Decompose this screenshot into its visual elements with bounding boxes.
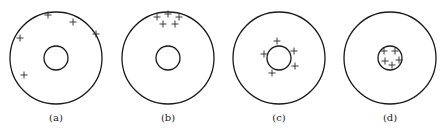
charge-distribution-figure: (a)(b)(c)(d) (a) (b) (c) (d)	[0, 0, 448, 132]
positive-charge-icon	[21, 72, 28, 79]
inner-cavity-circle	[156, 46, 180, 70]
panel-caption: (b)	[161, 112, 175, 123]
panel-c: (c)	[233, 12, 325, 123]
positive-charge-icon	[160, 21, 167, 28]
inner-cavity-circle	[378, 46, 402, 70]
outer-shell-circle	[233, 12, 325, 104]
positive-charge-icon	[172, 21, 179, 28]
positive-charge-icon	[381, 48, 388, 55]
inner-cavity-circle	[44, 46, 68, 70]
positive-charge-icon	[382, 58, 389, 65]
panel-d: (d)	[344, 12, 436, 123]
outer-shell-circle	[10, 12, 102, 104]
diagram-canvas: (a)(b)(c)(d)	[0, 0, 448, 132]
panel-caption: (d)	[383, 112, 397, 123]
panel-a: (a)	[10, 12, 102, 124]
positive-charge-icon	[274, 38, 281, 45]
positive-charge-icon	[389, 62, 396, 69]
panel-caption: (c)	[272, 112, 286, 123]
panel-caption: (a)	[49, 112, 63, 123]
positive-charge-icon	[17, 35, 24, 42]
outer-shell-circle	[122, 12, 214, 104]
positive-charge-icon	[291, 48, 298, 55]
outer-shell-circle	[344, 12, 436, 104]
positive-charge-icon	[70, 19, 77, 26]
positive-charge-icon	[269, 70, 276, 77]
positive-charge-icon	[292, 63, 299, 70]
panel-b: (b)	[122, 11, 214, 124]
inner-cavity-circle	[267, 46, 291, 70]
